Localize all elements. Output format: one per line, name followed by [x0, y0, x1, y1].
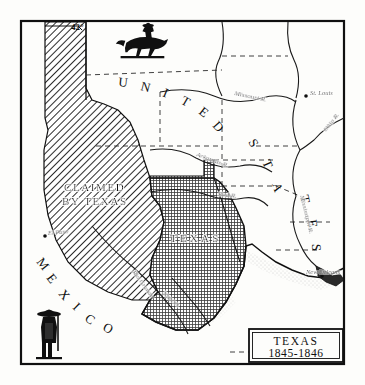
texas-1845-1846-map: 42° U N I T E D S T A T E S M E X I C O … [0, 0, 365, 385]
us-letter-s2: S [309, 244, 324, 252]
claimed-line-2: BY TEXAS [62, 195, 128, 207]
label-st-louis: St. Louis [310, 89, 333, 96]
label-new-orleans: New Orleans [305, 268, 341, 275]
city-dot-st-louis [304, 94, 308, 98]
cartouche-title: TEXAS [273, 335, 318, 347]
map-canvas: 42° U N I T E D S T A T E S M E X I C O … [0, 0, 365, 385]
lat-42-label: 42° [71, 22, 84, 32]
city-dot-el-paso [43, 234, 47, 238]
cartouche-dates: 1845-1846 [268, 347, 323, 359]
claimed-line-1: CLAIMED [64, 181, 125, 193]
label-texas: TEXAS [170, 232, 221, 244]
title-cartouche: TEXAS 1845-1846 [249, 329, 343, 362]
